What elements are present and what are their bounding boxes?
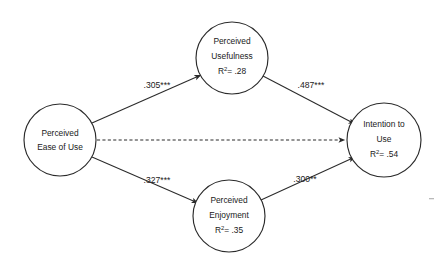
node-perceived-ease-of-use: Perceived Ease of Use: [24, 104, 96, 176]
coefficient-ease-of-use-to-enjoyment: .327***: [144, 175, 171, 185]
coefficient-ease-of-use-to-usefulness: .305***: [144, 80, 171, 90]
perceived-enjoyment-label-line1: Perceived: [210, 195, 248, 205]
perceived-enjoyment-r-squared: R2= .35: [215, 225, 243, 236]
path-model-diagram: Perceived Ease of Use Perceived Usefulne…: [0, 0, 447, 267]
coefficient-labels-group: .305*** .487*** .327*** .300**: [144, 80, 325, 185]
intention-to-use-r-squared: R2= .54: [370, 149, 398, 160]
perceived-ease-of-use-label-line1: Perceived: [41, 128, 79, 138]
node-intention-to-use: Intention to Use R2= .54: [347, 103, 421, 177]
coefficient-usefulness-to-intention: .487***: [298, 80, 325, 90]
perceived-ease-of-use-circle: [24, 104, 96, 176]
perceived-usefulness-label-line1: Perceived: [213, 36, 251, 46]
scan-artifact-speck: [429, 198, 434, 199]
perceived-ease-of-use-label-line2: Ease of Use: [37, 142, 83, 152]
coefficient-enjoyment-to-intention: .300**: [293, 174, 317, 184]
model-canvas: Perceived Ease of Use Perceived Usefulne…: [0, 0, 447, 267]
intention-to-use-label-line1: Intention to: [363, 119, 405, 129]
intention-to-use-label-line2: Use: [377, 134, 392, 144]
node-perceived-enjoyment: Perceived Enjoyment R2= .35: [193, 180, 265, 252]
perceived-usefulness-r-squared: R2= .28: [218, 66, 246, 77]
perceived-enjoyment-label-line2: Enjoyment: [209, 210, 249, 220]
nodes-group: Perceived Ease of Use Perceived Usefulne…: [24, 22, 421, 252]
node-perceived-usefulness: Perceived Usefulness R2= .28: [196, 22, 268, 94]
perceived-usefulness-label-line2: Usefulness: [211, 51, 252, 61]
